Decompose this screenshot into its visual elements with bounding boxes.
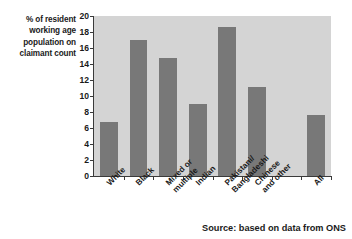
y-axis-tick-label: 4: [84, 139, 89, 149]
y-axis-tick-mark: [90, 32, 94, 33]
x-axis-tick-mark: [213, 176, 214, 180]
chart-plot-frame: 02468101214161820: [93, 16, 331, 177]
chart-plot-area: 02468101214161820: [94, 16, 331, 176]
chart-bar: [307, 115, 325, 176]
y-axis-caption-line-3: population on: [2, 37, 76, 48]
y-axis-tick-mark: [90, 128, 94, 129]
chart-bar: [100, 122, 118, 176]
chart-bar: [159, 58, 177, 176]
y-axis-tick-label: 8: [84, 107, 89, 117]
y-axis-tick-label: 10: [79, 91, 89, 101]
y-axis-tick-mark: [90, 144, 94, 145]
y-axis-tick-label: 0: [84, 171, 89, 181]
y-axis-caption: % of resident working age population on …: [2, 14, 76, 60]
y-axis-tick-label: 16: [79, 43, 89, 53]
y-axis-tick-mark: [90, 112, 94, 113]
y-axis-tick-mark: [90, 160, 94, 161]
y-axis-caption-line-4: claimant count: [2, 48, 76, 59]
y-axis-tick-mark: [90, 80, 94, 81]
y-axis-tick-mark: [90, 96, 94, 97]
y-axis-tick-label: 18: [79, 27, 89, 37]
y-axis-tick-label: 2: [84, 155, 89, 165]
y-axis-tick-mark: [90, 64, 94, 65]
y-axis-tick-label: 12: [79, 75, 89, 85]
y-axis-caption-line-2: working age: [2, 25, 76, 36]
x-axis-tick-mark: [153, 176, 154, 180]
source-note: Source: based on data from ONS: [202, 223, 346, 233]
y-axis-tick-mark: [90, 16, 94, 17]
x-axis-tick-mark: [124, 176, 125, 180]
y-axis-tick-label: 14: [79, 59, 89, 69]
y-axis-tick-label: 20: [79, 11, 89, 21]
y-axis-tick-mark: [90, 48, 94, 49]
chart-bar: [218, 27, 236, 176]
x-axis-tick-mark: [301, 176, 302, 180]
y-axis-tick-mark: [90, 176, 94, 177]
y-axis-tick-label: 6: [84, 123, 89, 133]
x-axis-tick-mark: [331, 176, 332, 180]
y-axis-caption-line-1: % of resident: [2, 14, 76, 25]
chart-bar: [130, 40, 148, 176]
